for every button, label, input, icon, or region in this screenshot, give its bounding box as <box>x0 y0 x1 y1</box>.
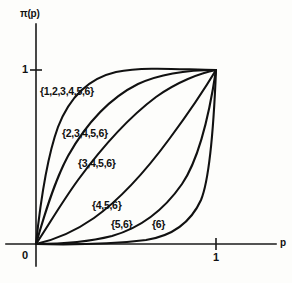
curve-label-456: {4,5,6} <box>92 200 121 211</box>
plot-svg <box>0 0 292 283</box>
x-tick-label-1: 1 <box>213 252 219 263</box>
x-axis-label: p <box>280 238 286 248</box>
curve-label-6: {6} <box>152 219 165 230</box>
curve-label-123456: {1,2,3,4,5,6} <box>40 86 94 97</box>
curve-label-23456: {2,3,4,5,6} <box>62 128 108 139</box>
curve-label-56: {5,6} <box>111 219 132 230</box>
origin-label: 0 <box>22 250 28 261</box>
y-tick-label-1: 1 <box>22 64 28 75</box>
y-axis-label: π(p) <box>20 9 40 19</box>
figure-container: π(p) p 0 1 1 {1,2,3,4,5,6} {2,3,4,5,6} {… <box>0 0 292 283</box>
curve-label-3456: {3,4,5,6} <box>78 158 116 169</box>
